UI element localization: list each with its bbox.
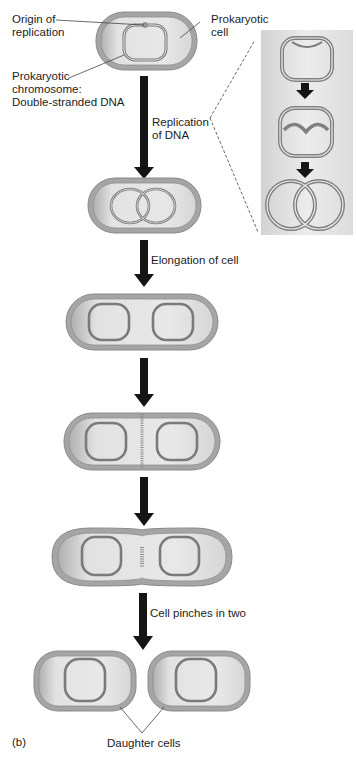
- panel-label: (b): [12, 736, 26, 749]
- cell-pinches-in-two-label: Cell pinches in two: [150, 607, 246, 620]
- origin-of-replication-label: Origin of replication: [12, 13, 64, 39]
- arrow-down-icon: [133, 593, 153, 650]
- daughter-cell-left: [34, 651, 136, 711]
- septum-forming-cell: [64, 413, 220, 470]
- binary-fission-diagram: [0, 0, 356, 757]
- replicated-dna-cell: [88, 178, 201, 233]
- arrow-down-icon: [134, 358, 154, 407]
- pinching-cell: [52, 528, 232, 586]
- initial-cell: [96, 12, 197, 70]
- prokaryotic-cell-label: Prokaryotic cell: [211, 13, 269, 39]
- elongation-of-cell-label: Elongation of cell: [151, 254, 239, 267]
- dna-replication-inset: [261, 30, 353, 235]
- daughter-leader: [120, 707, 164, 733]
- daughter-cells-label: Daughter cells: [107, 737, 181, 750]
- arrow-down-icon: [134, 477, 154, 526]
- prokaryotic-chromosome-label: Prokaryotic chromosome: Double-stranded …: [12, 70, 125, 109]
- elongated-cell: [66, 294, 218, 350]
- arrow-down-icon: [134, 76, 154, 179]
- replication-of-dna-label: Replication of DNA: [152, 116, 209, 142]
- daughter-cell-right: [148, 651, 250, 711]
